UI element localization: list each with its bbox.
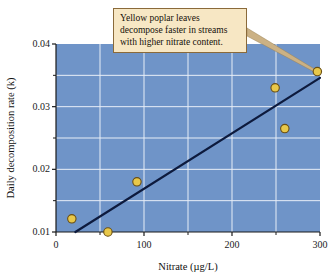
x-axis-tick-label: 300 — [313, 240, 328, 250]
y-axis-tick-label: 0.03 — [12, 102, 50, 112]
y-axis-title: Daily decomposition rate (k) — [6, 77, 17, 198]
x-axis-title: Nitrate (µg/L) — [158, 262, 217, 273]
chart-figure: 0.010.020.030.04 0100200300 Daily decomp… — [0, 0, 336, 280]
data-point — [313, 67, 321, 75]
annotation-line-3: with higher nitrate content. — [120, 36, 241, 48]
data-point — [271, 84, 279, 92]
y-axis-tick-label: 0.02 — [12, 164, 50, 174]
annotation-callout: Yellow poplar leaves decompose faster in… — [113, 8, 247, 53]
x-axis-tick-label: 100 — [137, 240, 152, 250]
annotation-line-1: Yellow poplar leaves — [120, 12, 241, 24]
data-point — [104, 228, 112, 236]
x-axis-tick-label: 0 — [54, 240, 59, 250]
y-axis-tick-label: 0.04 — [12, 39, 50, 49]
data-point — [68, 215, 76, 223]
y-axis-tick-label: 0.01 — [12, 227, 50, 237]
annotation-line-2: decompose faster in streams — [120, 24, 241, 36]
x-axis-tick-label: 200 — [225, 240, 240, 250]
data-point — [133, 178, 141, 186]
data-point — [281, 124, 289, 132]
